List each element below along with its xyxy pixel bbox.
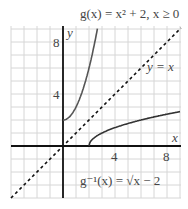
x-tick-4: 4 [111,149,118,164]
axis-x-label: x [171,130,178,145]
y-tick-4: 4 [53,87,60,102]
label-identity: y = x [145,59,174,74]
title-g: g(x) = x² + 2, x ≥ 0 [80,6,179,21]
function-inverse-graph: g(x) = x² + 2, x ≥ 0 y = x g⁻¹(x) = √x −… [0,0,188,209]
x-tick-8: 8 [163,149,170,164]
y-tick-8: 8 [53,35,60,50]
graph-canvas: g(x) = x² + 2, x ≥ 0 y = x g⁻¹(x) = √x −… [0,0,188,209]
axis-y-label: y [65,25,73,40]
label-inverse: g⁻¹(x) = √x − 2 [80,173,160,188]
g-inverse-curve [89,112,180,146]
